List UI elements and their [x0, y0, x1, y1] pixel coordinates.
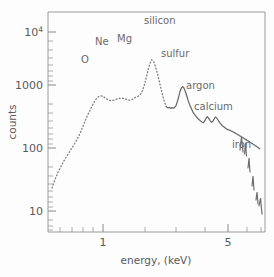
annotation-iron: iron: [232, 139, 251, 150]
annotation-sulfur: sulfur: [161, 48, 190, 59]
annotation-calcium: calcium: [194, 101, 233, 112]
y-tick-label-100: 100: [22, 142, 43, 155]
xray-spectrum-figure: 104 1000 100 10 1 5 energy, (keV) counts…: [0, 0, 274, 277]
annotation-argon: argon: [186, 80, 215, 91]
x-axis-title: energy, (keV): [121, 254, 192, 266]
spectrum-chart: 104 1000 100 10 1 5 energy, (keV) counts…: [0, 0, 274, 277]
annotation-oxygen: O: [81, 54, 89, 65]
x-tick-label-1: 1: [100, 236, 107, 249]
y-tick-label-1000: 1000: [15, 79, 43, 92]
annotation-magnesium: Mg: [117, 33, 132, 44]
annotation-silicon: silicon: [144, 15, 176, 26]
annotation-neon: Ne: [95, 36, 109, 47]
y-tick-label-10: 10: [29, 205, 43, 218]
x-tick-label-5: 5: [225, 236, 232, 249]
y-axis-title: counts: [6, 104, 18, 139]
